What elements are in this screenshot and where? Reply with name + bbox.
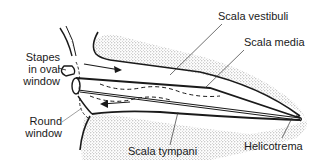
- helicotrema-label: Helicotrema: [244, 140, 303, 152]
- round-window-label-line2: window: [16, 127, 62, 139]
- scala-tympani-label: Scala tympani: [128, 145, 197, 157]
- scala-vestibuli-label: Scala vestibuli: [218, 10, 288, 22]
- cochlea-diagram: Stapes in oval window Round window Scala…: [0, 0, 320, 166]
- stapes-label: Stapes in oval window: [12, 51, 60, 87]
- left-bone-upper: [60, 28, 72, 56]
- round-window-label-line1: Round: [16, 115, 62, 127]
- stapes-footplate: [61, 66, 74, 76]
- leader-round-window: [62, 108, 82, 122]
- stapes-label-line1: Stapes: [12, 51, 60, 63]
- round-window-label: Round window: [16, 115, 62, 139]
- stapes-label-line2: in oval: [12, 63, 60, 75]
- stapes-label-line3: window: [12, 75, 60, 87]
- scala-media-label: Scala media: [244, 36, 305, 48]
- arrow-forward-icon: [84, 64, 122, 73]
